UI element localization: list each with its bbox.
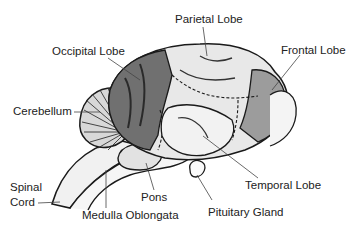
- label-temporal-lobe: Temporal Lobe: [245, 180, 321, 192]
- label-medulla-oblongata: Medulla Oblongata: [82, 210, 179, 222]
- label-cerebellum: Cerebellum: [13, 106, 72, 118]
- label-occipital-lobe: Occipital Lobe: [52, 46, 125, 58]
- label-pituitary-gland: Pituitary Gland: [208, 207, 283, 219]
- pituitary-gland-shape: [190, 160, 205, 177]
- label-parietal-lobe: Parietal Lobe: [175, 14, 243, 26]
- label-pons: Pons: [141, 192, 167, 204]
- frontal-tip-shape: [270, 91, 296, 146]
- label-spinal-cord-line1: Spinal: [10, 182, 42, 194]
- label-frontal-lobe: Frontal Lobe: [281, 45, 346, 57]
- label-spinal-cord-line2: Cord: [10, 197, 35, 209]
- brain-diagram: Parietal Lobe Occipital Lobe Frontal Lob…: [0, 0, 361, 232]
